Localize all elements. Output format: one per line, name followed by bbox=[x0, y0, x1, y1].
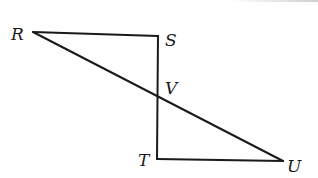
label-V: V bbox=[165, 78, 179, 98]
label-T: T bbox=[138, 150, 151, 170]
segment-RS bbox=[33, 32, 158, 36]
segment-TU bbox=[157, 159, 283, 161]
label-R: R bbox=[10, 24, 24, 44]
geometry-diagram: R S V T U bbox=[0, 0, 318, 178]
label-S: S bbox=[165, 30, 177, 50]
label-U: U bbox=[287, 156, 302, 176]
